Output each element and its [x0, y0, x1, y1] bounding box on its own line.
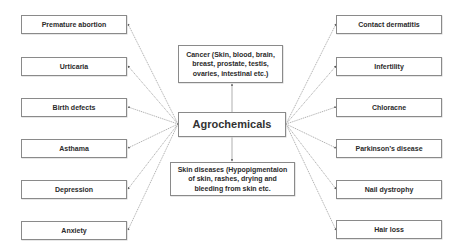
effect-anxiety: Anxiety: [21, 221, 127, 240]
box-label: Birth defects: [53, 103, 96, 112]
effect-hair-loss: Hair loss: [336, 220, 442, 239]
box-label: Nail dystrophy: [365, 185, 414, 194]
box-label: Hair loss: [374, 225, 404, 234]
box-label: Anxiety: [61, 226, 86, 235]
central-label: Agrochemicals: [193, 117, 272, 131]
effect-chloracne: Chloracne: [336, 98, 442, 117]
box-label: Cancer (Skin, blood, brain, breast, pros…: [183, 50, 278, 77]
central-node-agrochemicals: Agrochemicals: [178, 112, 286, 137]
effect-urticaria: Urticaria: [21, 57, 127, 76]
effect-infertility: Infertility: [336, 57, 442, 76]
effect-contact-dermatitis: Contact dermatitis: [336, 15, 442, 34]
box-label: Depression: [55, 185, 93, 194]
box-label: Premature abortion: [42, 20, 107, 29]
effect-depression: Depression: [21, 180, 127, 199]
effect-cancer: Cancer (Skin, blood, brain, breast, pros…: [178, 45, 283, 83]
box-label: Asthama: [59, 144, 89, 153]
box-label: Chloracne: [372, 103, 406, 112]
box-label: Infertility: [374, 62, 404, 71]
effect-skin-diseases: Skin diseases (Hypopigmentaion of skin, …: [170, 162, 295, 196]
effect-premature-abortion: Premature abortion: [21, 15, 127, 34]
effect-asthma: Asthama: [21, 139, 127, 158]
box-label: Urticaria: [60, 62, 88, 71]
effect-birth-defects: Birth defects: [21, 98, 127, 117]
box-label: Skin diseases (Hypopigmentaion of skin, …: [174, 165, 291, 192]
effect-parkinsons-disease: Parkinson’s disease: [336, 139, 442, 158]
box-label: Parkinson’s disease: [355, 144, 422, 153]
box-label: Contact dermatitis: [358, 20, 419, 29]
effect-nail-dystrophy: Nail dystrophy: [336, 180, 442, 199]
agrochemicals-effects-diagram: Premature abortion Urticaria Birth defec…: [0, 0, 464, 251]
